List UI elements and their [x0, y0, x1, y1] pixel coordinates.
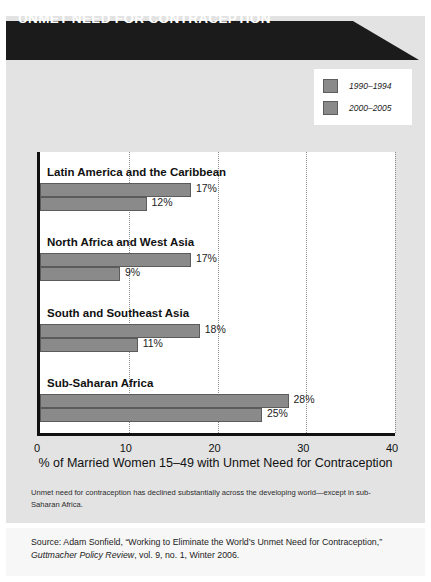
plot-area: Latin America and the Caribbean17%12%Nor…: [37, 152, 395, 436]
bar-group: Latin America and the Caribbean17%12%: [40, 152, 395, 222]
source-journal: Guttmacher Policy Review: [31, 550, 134, 560]
bar-value-label: 28%: [294, 393, 315, 405]
legend-item-2000-2005: 2000–2005: [323, 101, 392, 115]
page-title: UNMET NEED FOR CONTRACEPTION: [18, 11, 271, 26]
bar-row: 18%: [40, 324, 395, 338]
x-axis-tick-label: 20: [195, 442, 235, 454]
chart-legend: 1990–1994 2000–2005: [314, 69, 412, 125]
bar-row: 28%: [40, 394, 395, 408]
bar-value-label: 17%: [196, 252, 217, 264]
bar-value-label: 18%: [205, 323, 226, 335]
source-prefix: Source: Adam Sonfield, “Working to Elimi…: [31, 537, 382, 547]
bar-value-label: 17%: [196, 182, 217, 194]
figure-unmet-need-for-contraception: UNMET NEED FOR CONTRACEPTION 1990–1994 2…: [0, 0, 431, 582]
legend-item-1990-1994: 1990–1994: [323, 79, 392, 93]
bar-value-label: 25%: [267, 407, 288, 419]
bar-group: North Africa and West Asia17%9%: [40, 222, 395, 292]
bar-value-label: 12%: [152, 196, 173, 208]
bar-group-label: Sub-Saharan Africa: [47, 377, 153, 389]
source-suffix: , vol. 9, no. 1, Winter 2006.: [134, 550, 239, 560]
bar: [40, 183, 191, 197]
bar-row: 11%: [40, 338, 395, 352]
x-axis-tick-label: 30: [283, 442, 323, 454]
x-axis-tick-label: 40: [372, 442, 412, 454]
bar-group-label: South and Southeast Asia: [47, 307, 189, 319]
bar-group: Sub-Saharan Africa28%25%: [40, 363, 395, 433]
x-axis-tick-label: 0: [17, 442, 57, 454]
chart-note: Unmet need for contraception has decline…: [31, 487, 393, 511]
source-text: Source: Adam Sonfield, “Working to Elimi…: [31, 536, 411, 562]
bar: [40, 267, 120, 281]
source-block: Source: Adam Sonfield, “Working to Elimi…: [6, 528, 425, 576]
bar: [40, 324, 200, 338]
x-axis-title: % of Married Women 15–49 with Unmet Need…: [6, 456, 425, 470]
x-axis-tick-label: 10: [106, 442, 146, 454]
legend-label: 1990–1994: [349, 81, 392, 91]
title-bar: [6, 21, 419, 60]
bar: [40, 338, 138, 352]
bar: [40, 394, 289, 408]
bar-group-label: North Africa and West Asia: [47, 236, 194, 248]
bar-group-label: Latin America and the Caribbean: [47, 166, 226, 178]
bar-value-label: 9%: [125, 266, 140, 278]
bar: [40, 253, 191, 267]
legend-label: 2000–2005: [349, 103, 392, 113]
bar-row: 25%: [40, 408, 395, 422]
bar-row: 17%: [40, 183, 395, 197]
bar-row: 17%: [40, 253, 395, 267]
bar-group: South and Southeast Asia18%11%: [40, 293, 395, 363]
bar-value-label: 11%: [143, 337, 163, 349]
bar-row: 9%: [40, 267, 395, 281]
bar: [40, 408, 262, 422]
legend-swatch-icon: [323, 79, 338, 93]
bar-groups: Latin America and the Caribbean17%12%Nor…: [40, 152, 395, 433]
bar: [40, 197, 147, 211]
bar-row: 12%: [40, 197, 395, 211]
gridline: [395, 152, 396, 433]
legend-swatch-icon: [323, 101, 338, 115]
